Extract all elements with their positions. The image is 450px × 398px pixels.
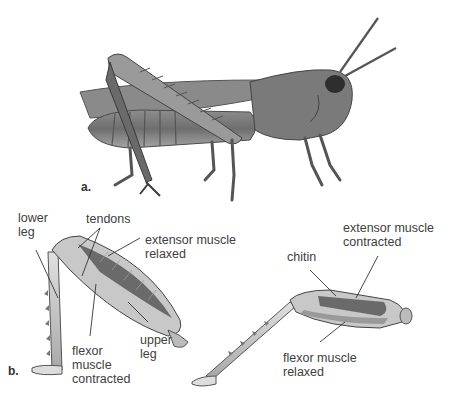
label-upper-leg: upper leg	[140, 333, 172, 361]
label-lower-leg: lower leg	[18, 211, 48, 239]
label-tendons: tendons	[86, 212, 130, 226]
label-extensor-relaxed: extensor muscle relaxed	[145, 233, 236, 261]
label-chitin: chitin	[287, 250, 316, 264]
figure-canvas	[0, 0, 450, 398]
panel-a-label: a.	[81, 180, 91, 194]
label-flexor-relaxed: flexor muscle relaxed	[283, 351, 357, 379]
grasshopper-illustration	[80, 18, 396, 200]
panel-b-label: b.	[8, 364, 19, 378]
label-flexor-contracted: flexor muscle contracted	[72, 344, 130, 386]
label-extensor-contracted: extensor muscle contracted	[343, 221, 434, 249]
